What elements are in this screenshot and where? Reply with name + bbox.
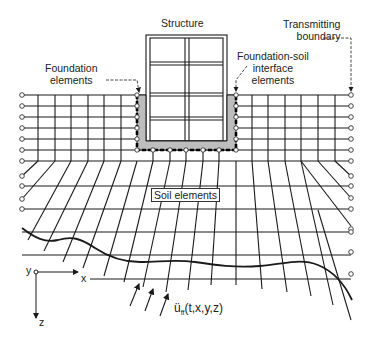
foundation-line-1: Foundation	[45, 62, 98, 74]
coordinate-axes	[34, 270, 78, 318]
eq-args: (t,x,y,z)	[184, 301, 222, 315]
transmitting-boundary-line-1: Transmitting	[283, 18, 340, 30]
interface-line-3: elements	[237, 74, 309, 86]
axis-z-label: z	[39, 316, 44, 328]
leader-arrows	[106, 38, 351, 92]
interface-elements-label: Foundation-soil interface elements	[237, 50, 309, 86]
structure-label: Structure	[161, 17, 204, 29]
structure-frame	[146, 35, 227, 141]
free-field-acceleration-label: üff(t,x,y,z)	[174, 301, 223, 316]
eq-base: ü	[174, 301, 181, 315]
axis-y-label: y	[26, 264, 31, 276]
soil-structure-diagram	[0, 0, 373, 341]
lower-mesh	[22, 161, 351, 320]
mesh-bottom-boundary	[22, 228, 352, 300]
interface-line-1: Foundation-soil	[237, 50, 309, 62]
transmitting-boundary-line-2: boundary	[283, 30, 340, 42]
soil-elements-label: Soil elements	[151, 188, 220, 202]
foundation-line-2: elements	[45, 74, 98, 86]
excitation-arrows	[130, 284, 168, 316]
axis-x-label: x	[81, 272, 86, 284]
transmitting-boundary-label: Transmitting boundary	[283, 18, 340, 42]
interface-line-2: interface	[237, 62, 309, 74]
foundation-elements-label: Foundation elements	[45, 62, 98, 86]
